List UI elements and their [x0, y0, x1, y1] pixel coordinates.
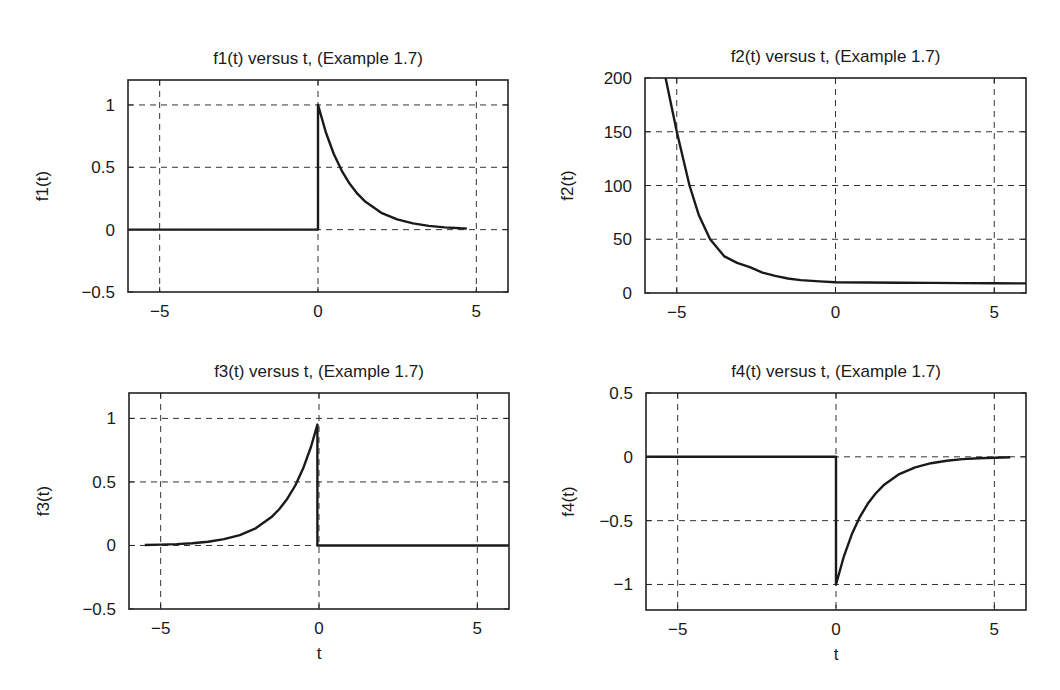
- y-tick-label: −1: [614, 575, 633, 594]
- y-tick-label: 0: [623, 284, 632, 303]
- y-tick-label: −0.5: [81, 283, 115, 302]
- subplot-3: −505−0.500.51f3(t) versus t, (Example 1.…: [34, 362, 509, 663]
- subplot-1: −505−0.500.51f1(t) versus t, (Example 1.…: [33, 49, 508, 321]
- figure: −505−0.500.51f1(t) versus t, (Example 1.…: [0, 0, 1060, 690]
- y-axis-label: f4(t): [559, 486, 578, 516]
- x-tick-label: 5: [472, 302, 481, 321]
- y-tick-label: 0.5: [609, 384, 633, 403]
- y-axis-label: f3(t): [34, 486, 53, 516]
- y-tick-label: 150: [604, 123, 632, 142]
- x-tick-label: 5: [990, 620, 999, 639]
- y-tick-label: 1: [107, 409, 116, 428]
- y-axis-label: f1(t): [33, 171, 52, 201]
- subplot-title: f4(t) versus t, (Example 1.7): [731, 362, 941, 381]
- curve-f2t: [666, 78, 1026, 283]
- x-tick-label: 0: [314, 619, 323, 638]
- subplot-title: f2(t) versus t, (Example 1.7): [731, 47, 941, 66]
- subplot-title: f3(t) versus t, (Example 1.7): [214, 362, 424, 381]
- x-tick-label: 0: [313, 302, 322, 321]
- subplot-title: f1(t) versus t, (Example 1.7): [213, 49, 423, 68]
- x-tick-label: 5: [473, 619, 482, 638]
- subplot-4: −505−1−0.500.5f4(t) versus t, (Example 1…: [559, 362, 1026, 664]
- y-tick-label: 0.5: [92, 473, 116, 492]
- x-tick-label: 0: [831, 620, 840, 639]
- x-tick-label: −5: [151, 619, 170, 638]
- grid-lines: [645, 78, 1026, 293]
- subplot-2: −505050100150200f2(t) versus t, (Example…: [558, 47, 1026, 322]
- x-tick-label: 5: [990, 303, 999, 322]
- y-tick-label: 0: [624, 448, 633, 467]
- y-tick-label: 0: [107, 536, 116, 555]
- y-axis-label: f2(t): [558, 170, 577, 200]
- x-tick-label: −5: [668, 620, 687, 639]
- x-axis-label: t: [317, 644, 322, 663]
- y-tick-label: −0.5: [82, 600, 116, 619]
- y-tick-label: 100: [604, 177, 632, 196]
- y-tick-label: 1: [106, 96, 115, 115]
- curve-f3t: [145, 425, 509, 546]
- x-tick-label: −5: [667, 303, 686, 322]
- y-tick-label: −0.5: [599, 512, 633, 531]
- x-axis-label: t: [834, 645, 839, 664]
- y-tick-label: 50: [613, 230, 632, 249]
- y-tick-label: 200: [604, 69, 632, 88]
- y-tick-label: 0: [106, 221, 115, 240]
- x-tick-label: −5: [150, 302, 169, 321]
- axes-box: [129, 393, 509, 609]
- x-tick-label: 0: [831, 303, 840, 322]
- grid-lines: [129, 393, 509, 609]
- y-tick-label: 0.5: [91, 158, 115, 177]
